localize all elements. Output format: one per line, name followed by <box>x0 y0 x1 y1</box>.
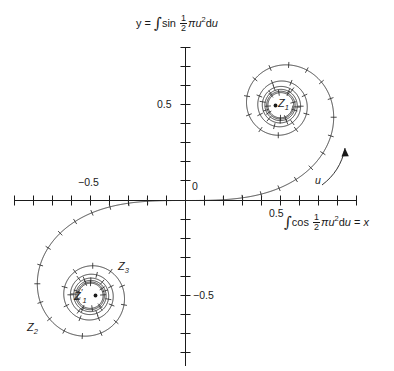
one-half-fraction-y: 12 <box>180 14 187 34</box>
origin-label: 0 <box>192 181 198 192</box>
curve-tick-mark <box>92 305 93 311</box>
curve-tick-mark <box>294 127 298 132</box>
curve-tick-mark <box>73 269 77 274</box>
x-tick-label-neg-half: −0.5 <box>78 177 99 188</box>
curve-tick-mark <box>305 67 308 72</box>
integral-sign-x: ∫ <box>284 213 292 231</box>
z1-label: Z1 <box>278 98 289 112</box>
curve-tick-mark <box>77 276 81 281</box>
curve-tick-mark <box>105 299 111 300</box>
z3-label: Z3 <box>118 261 129 275</box>
y-tick-label-neg-half: −0.5 <box>193 290 214 301</box>
x-axis-tail: πu2du = x <box>321 216 369 228</box>
curve-tick-mark <box>46 246 51 249</box>
y-tick-label-pos-half: 0.5 <box>157 99 172 110</box>
x-axis-integrand: cos <box>292 216 309 228</box>
curve-tick-mark <box>77 309 80 314</box>
parameter-direction-arrow <box>322 148 349 185</box>
z1-prime-dot <box>94 294 98 298</box>
curve-tick-mark <box>320 152 325 155</box>
x-tick-label-pos-half: 0.5 <box>269 208 284 219</box>
y-axis-title-prefix: y = <box>136 17 151 29</box>
curve-tick-mark <box>278 90 279 96</box>
integral-sign-y: ∫ <box>154 14 162 32</box>
curve-tick-mark <box>121 304 127 305</box>
z1-prime-label: Z′1 <box>74 288 87 304</box>
curve-tick-mark <box>109 269 112 274</box>
y-axis-title: y = ∫sin 12πu2du <box>136 14 218 34</box>
parameter-u-label: u <box>315 175 321 186</box>
curve-tick-mark <box>294 177 297 182</box>
one-half-fraction-x: 12 <box>313 213 320 233</box>
cornu-spiral-figure: y = ∫sin 12πu2du ∫cos 12πu2du = x −0.5 0… <box>0 0 394 371</box>
z1-dot <box>274 104 278 108</box>
z2-label: Z2 <box>27 322 38 336</box>
curve-tick-mark <box>259 127 262 132</box>
curve-tick-mark <box>244 96 250 97</box>
curve-tick-mark <box>291 120 295 125</box>
x-axis-title: ∫cos 12πu2du = x <box>284 213 369 233</box>
curve-tick-mark <box>73 219 76 224</box>
curve-tick-mark <box>63 328 66 333</box>
y-axis-integrand: sin <box>162 17 176 29</box>
y-axis-tail: πu2du <box>188 17 218 29</box>
curve-tick-mark <box>260 101 266 102</box>
curve-tick-mark <box>290 88 293 93</box>
